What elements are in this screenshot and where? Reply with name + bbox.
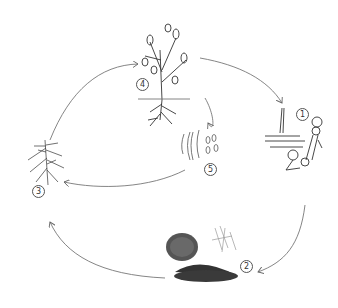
diagram-canvas — [0, 0, 338, 308]
stage-label-1: 1 — [296, 108, 309, 121]
arrow-4-to-1 — [200, 58, 282, 103]
arrow-1-to-2 — [258, 205, 305, 272]
arrow-5-to-3 — [64, 170, 185, 186]
arrow-4-to-5 — [205, 98, 213, 127]
hyphae-illustration — [265, 108, 322, 170]
arrow-3-to-4 — [50, 64, 138, 140]
root-system-illustration — [28, 140, 64, 185]
disease-cycle-diagram: 4 1 5 3 2 — [0, 0, 338, 308]
stage-label-3: 3 — [32, 185, 45, 198]
soil-debris-illustration — [166, 226, 238, 282]
spores-illustration — [182, 130, 218, 160]
stage-label-2: 2 — [240, 260, 253, 273]
plant-illustration — [138, 24, 190, 126]
arrow-2-to-3 — [50, 222, 165, 278]
stage-label-4: 4 — [136, 78, 149, 91]
stage-label-5: 5 — [204, 163, 217, 176]
